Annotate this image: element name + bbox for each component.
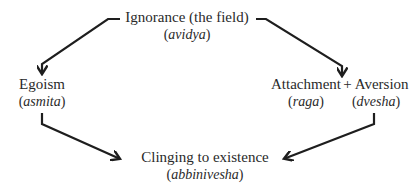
node-attachment: Attachment (raga) xyxy=(262,76,350,110)
node-aversion-term: (dvesha) xyxy=(340,93,412,110)
arrow-attachment-aversion-to-clinging xyxy=(286,113,374,158)
node-ignorance-term: (avidya) xyxy=(122,26,252,43)
node-aversion-label: + Aversion xyxy=(340,76,412,93)
node-aversion: + Aversion (dvesha) xyxy=(340,76,412,110)
node-ignorance: Ignorance (the field) (avidya) xyxy=(122,9,252,43)
kleshas-diagram: Ignorance (the field) (avidya) Egoism (a… xyxy=(0,0,412,185)
node-ignorance-label: Ignorance (the field) xyxy=(122,9,252,26)
arrow-ignorance-to-egoism xyxy=(42,19,120,72)
node-egoism-label: Egoism xyxy=(2,76,82,93)
node-clinging-label: Clinging to existence xyxy=(122,149,288,166)
node-clinging-term: (abbinivesha) xyxy=(122,166,288,183)
node-attachment-label: Attachment xyxy=(262,76,350,93)
node-clinging: Clinging to existence (abbinivesha) xyxy=(122,149,288,183)
arrow-ignorance-to-attachment-aversion xyxy=(256,19,342,74)
node-egoism: Egoism (asmita) xyxy=(2,76,82,110)
node-attachment-term: (raga) xyxy=(262,93,350,110)
node-egoism-term: (asmita) xyxy=(2,93,82,110)
arrow-egoism-to-clinging xyxy=(42,113,118,158)
